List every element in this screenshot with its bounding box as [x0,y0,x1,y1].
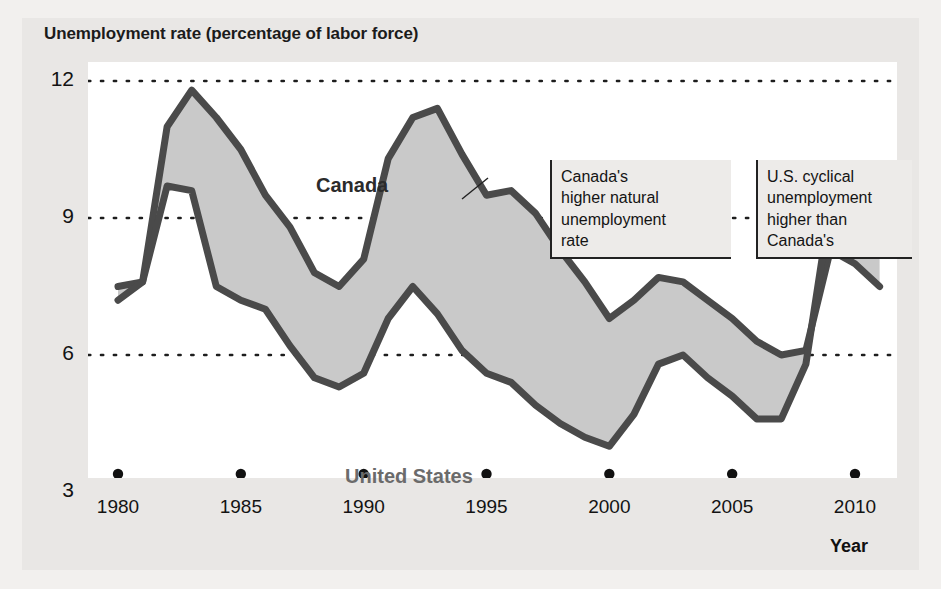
x-axis-tick-label: 1990 [329,496,399,518]
x-axis-tick-dots [113,469,860,478]
annotation-line: rate [561,230,721,251]
x-axis-title: Year [830,536,868,557]
plot-area: Canada United States Canada's higher nat… [88,62,897,478]
annotation-line: higher than [767,209,902,230]
x-axis-tick-dot [481,469,491,478]
y-axis-tick-label: 3 [34,478,74,502]
chart-figure: Unemployment rate (percentage of labor f… [0,0,941,589]
x-axis-tick-dot [727,469,737,478]
y-axis-tick-label: 9 [34,204,74,228]
series-label-united-states: United States [345,465,473,488]
series-label-canada: Canada [316,174,388,197]
annotation-line: U.S. cyclical [767,166,902,187]
annotation-line: Canada's [767,230,902,251]
chart-title: Unemployment rate (percentage of labor f… [44,24,418,44]
x-axis-tick-dot [236,469,246,478]
annotation-line: higher natural [561,187,721,208]
annotation-us-cyclical: U.S. cyclical unemployment higher than C… [756,160,912,259]
plot-svg [88,62,897,478]
y-axis-tick-label: 12 [34,67,74,91]
annotation-line: unemployment [767,187,902,208]
x-axis-tick-label: 1995 [452,496,522,518]
x-axis-tick-label: 2005 [697,496,767,518]
x-axis-tick-dot [850,469,860,478]
x-axis-tick-label: 1980 [83,496,153,518]
y-axis-tick-label: 6 [34,341,74,365]
x-axis-tick-dot [113,469,123,478]
x-axis-tick-label: 2010 [820,496,890,518]
x-axis-tick-label: 1985 [206,496,276,518]
x-axis-tick-dot [604,469,614,478]
x-axis-tick-label: 2000 [574,496,644,518]
annotation-line: unemployment [561,209,721,230]
annotation-line: Canada's [561,166,721,187]
annotation-canada-natural-rate: Canada's higher natural unemployment rat… [550,160,731,259]
